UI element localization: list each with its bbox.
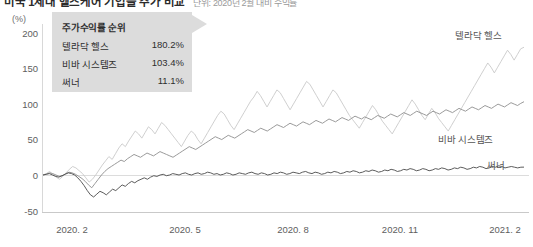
callout-name-veeva: 비바 시스템즈 (62, 57, 117, 71)
chart-root: 미국 1세대 헬스케어 기업들 주가 비교단위: 2020년 2월 대비 수익률… (0, 0, 533, 247)
callout-value-teladoc: 180.2% (152, 39, 184, 50)
callout-row-veeva: 비바 시스템즈 103.4% (62, 57, 184, 71)
callout-row-teladoc: 텔라닥 헬스 180.2% (62, 39, 184, 53)
series-label-teladoc: 텔라닥 헬스 (455, 28, 501, 42)
series-line-cerner (43, 166, 524, 197)
callout-value-veeva: 103.4% (152, 57, 184, 68)
callout-value-cerner: 11.1% (158, 75, 184, 86)
callout-name-teladoc: 텔라닥 헬스 (62, 39, 108, 53)
series-label-veeva: 비바 시스템즈 (438, 132, 493, 146)
series-label-cerner: 써너 (487, 158, 505, 172)
callout-tail (192, 15, 207, 33)
callout-row-cerner: 써너 11.1% (62, 75, 184, 89)
ranking-callout: 주가수익률 순위 텔라닥 헬스 180.2% 비바 시스템즈 103.4% 써너… (52, 12, 192, 92)
callout-name-cerner: 써너 (62, 75, 80, 89)
callout-title: 주가수익률 순위 (62, 20, 126, 34)
